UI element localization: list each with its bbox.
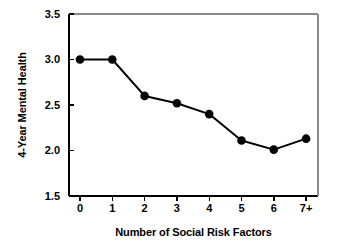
data-line xyxy=(80,60,306,150)
data-point-3 xyxy=(173,99,182,108)
axes xyxy=(69,14,318,196)
chart-figure: 4-Year Mental Health Number of Social Ri… xyxy=(0,0,337,251)
data-point-7+ xyxy=(302,134,311,143)
data-point-2 xyxy=(140,92,149,101)
plot-area xyxy=(0,0,337,251)
data-markers xyxy=(76,55,311,154)
data-point-1 xyxy=(108,55,117,64)
data-point-6 xyxy=(270,145,279,154)
data-point-5 xyxy=(237,136,246,145)
data-point-4 xyxy=(205,110,214,119)
data-point-0 xyxy=(76,55,85,64)
